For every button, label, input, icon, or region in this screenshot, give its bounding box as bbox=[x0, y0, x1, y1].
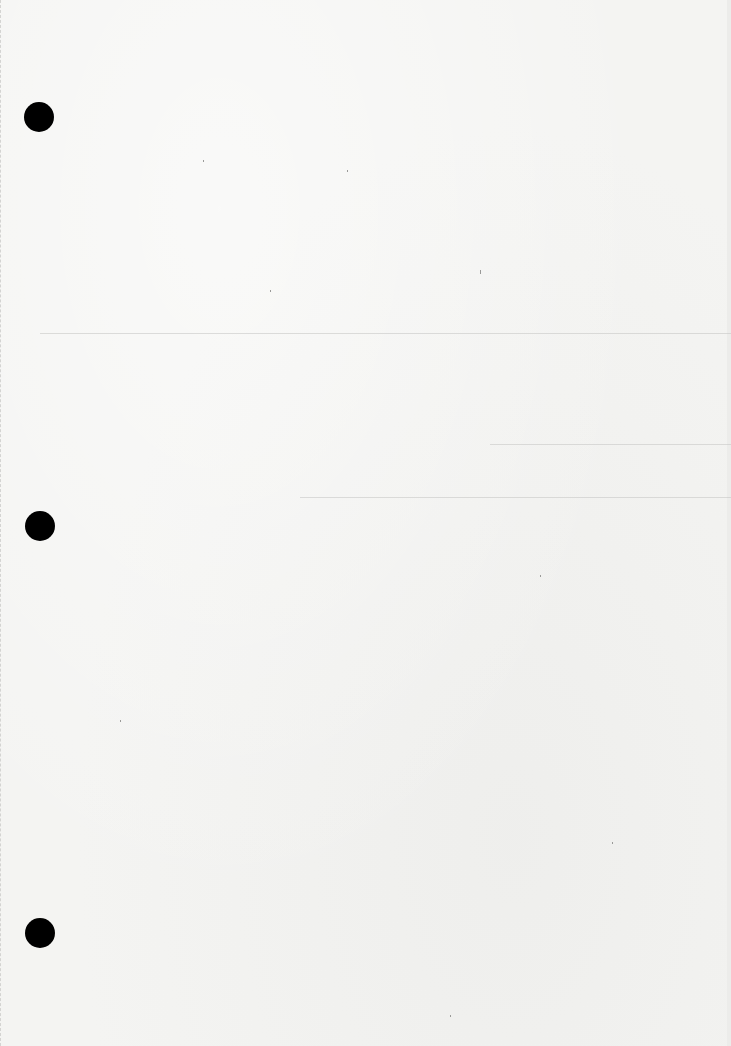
page-right-edge bbox=[727, 0, 731, 1046]
scan-speck bbox=[540, 575, 541, 577]
punch-hole-bottom bbox=[25, 918, 55, 948]
scan-speck bbox=[270, 290, 271, 292]
fold-line bbox=[40, 333, 731, 334]
scan-speck bbox=[612, 842, 613, 844]
blank-paper-page bbox=[0, 0, 731, 1046]
page-left-edge bbox=[0, 0, 4, 1046]
scan-speck bbox=[120, 720, 121, 722]
punch-hole-top bbox=[24, 102, 54, 132]
fold-line bbox=[490, 444, 731, 445]
scan-speck bbox=[450, 1015, 451, 1017]
scan-speck bbox=[480, 270, 481, 274]
scan-speck bbox=[347, 170, 348, 172]
fold-line bbox=[300, 497, 731, 498]
scan-speck bbox=[203, 160, 204, 162]
punch-hole-middle bbox=[25, 511, 55, 541]
